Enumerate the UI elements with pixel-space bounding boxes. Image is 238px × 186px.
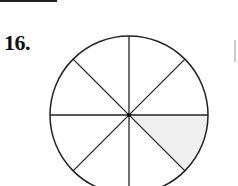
center-point [127, 113, 131, 117]
edge-artifact [234, 40, 236, 62]
fraction-circle-diagram [0, 0, 238, 186]
shaded-sector [129, 115, 208, 171]
